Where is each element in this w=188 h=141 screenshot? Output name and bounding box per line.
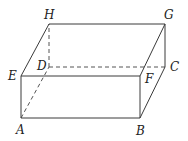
label-H: H (43, 8, 55, 22)
label-D: D (36, 59, 47, 73)
edge-AD (21, 67, 49, 118)
label-B: B (135, 124, 145, 138)
label-G: G (164, 8, 174, 22)
label-C: C (170, 60, 179, 74)
edge-GF (140, 24, 165, 76)
label-E: E (7, 69, 17, 83)
box-diagram: H G D C E F A B (0, 0, 188, 141)
label-F: F (144, 72, 154, 86)
label-A: A (15, 123, 25, 137)
